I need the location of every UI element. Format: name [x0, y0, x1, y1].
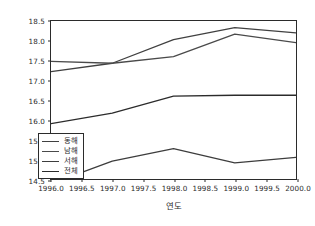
x-tick-label: 2000.0: [285, 184, 311, 193]
x-tick-mark: [143, 179, 144, 182]
series-line-동해: [51, 28, 296, 72]
x-tick-mark: [51, 179, 52, 182]
y-tick-label: 17.0: [29, 77, 45, 86]
legend-item-label: 전체: [64, 166, 78, 176]
legend-line-swatch: [42, 161, 59, 162]
legend-item[interactable]: 동해: [42, 136, 78, 146]
x-tick-label: 1996.0: [38, 184, 64, 193]
series-line-전체: [51, 95, 296, 123]
y-tick-label: 17.5: [29, 57, 45, 66]
y-tick-mark: [48, 21, 51, 22]
legend-item[interactable]: 남해: [42, 146, 78, 156]
x-tick-label: 1996.5: [69, 184, 95, 193]
y-tick-mark: [48, 121, 51, 122]
y-tick-mark: [48, 81, 51, 82]
x-tick-mark: [267, 179, 268, 182]
legend-line-swatch: [42, 171, 59, 172]
y-tick-mark: [48, 41, 51, 42]
x-tick-label: 1997.5: [131, 184, 157, 193]
x-tick-mark: [298, 179, 299, 182]
x-tick-mark: [112, 179, 113, 182]
x-tick-label: 1998.5: [193, 184, 219, 193]
chart-legend: 동해남해서해전체: [38, 133, 84, 179]
legend-item[interactable]: 서해: [42, 156, 78, 166]
legend-item-label: 동해: [64, 136, 78, 146]
series-line-서해: [51, 149, 296, 179]
x-tick-mark: [205, 179, 206, 182]
y-tick-label: 16.0: [29, 117, 45, 126]
series-line-남해: [51, 34, 296, 63]
x-tick-label: 1999.0: [223, 184, 249, 193]
y-tick-label: 16.5: [29, 97, 45, 106]
plot-area: 14.515.015.516.016.517.017.518.018.51996…: [50, 20, 297, 180]
y-tick-label: 18.0: [29, 37, 45, 46]
y-tick-label: 18.5: [29, 17, 45, 26]
x-tick-mark: [174, 179, 175, 182]
legend-item-label: 남해: [64, 146, 78, 156]
x-tick-label: 1997.0: [100, 184, 126, 193]
series-lines: [51, 21, 296, 179]
x-axis-label: 연도: [50, 199, 297, 211]
legend-item[interactable]: 전체: [42, 166, 78, 176]
x-tick-label: 1999.5: [254, 184, 280, 193]
legend-line-swatch: [42, 141, 59, 142]
y-tick-mark: [48, 61, 51, 62]
x-tick-mark: [81, 179, 82, 182]
legend-line-swatch: [42, 151, 59, 152]
legend-item-label: 서해: [64, 156, 78, 166]
x-tick-mark: [236, 179, 237, 182]
x-tick-label: 1998.0: [162, 184, 188, 193]
chart-figure: 14.515.015.516.016.517.017.518.018.51996…: [0, 0, 315, 226]
y-tick-mark: [48, 101, 51, 102]
